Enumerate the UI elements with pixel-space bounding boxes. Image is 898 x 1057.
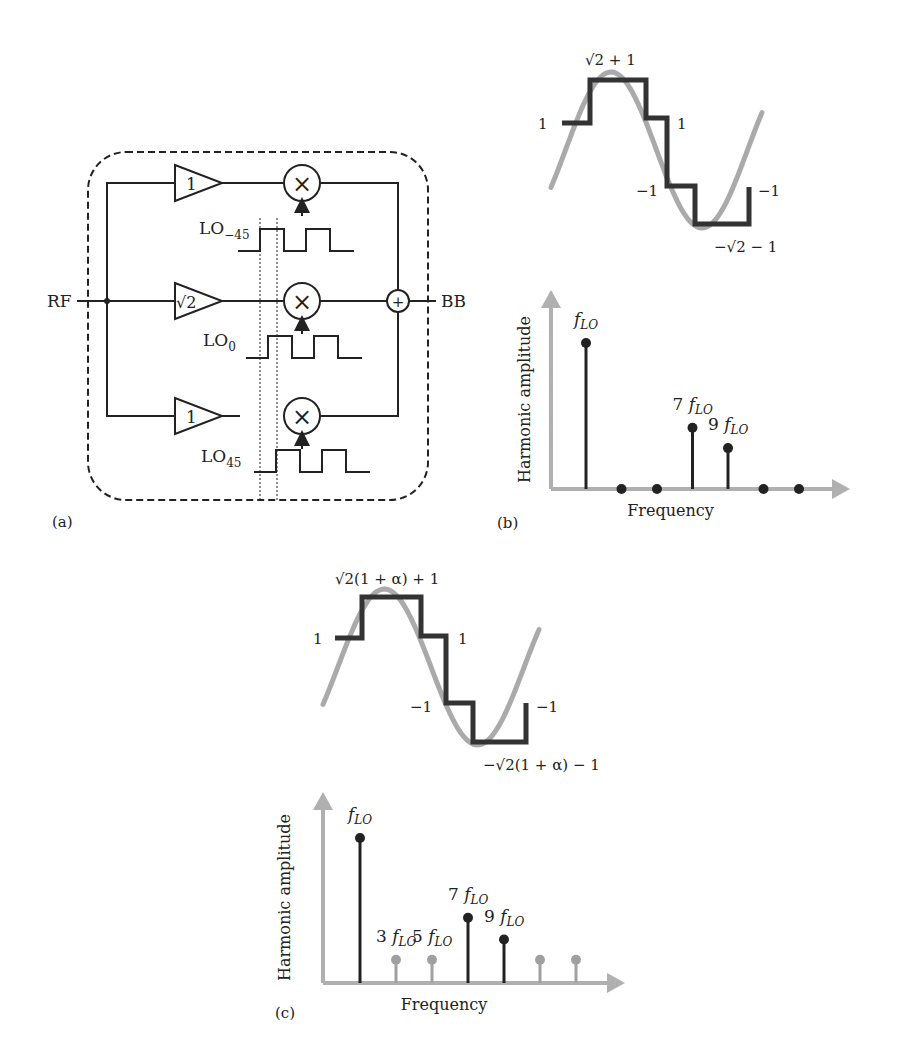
stem-marker-fLO (581, 338, 591, 348)
input-bus (107, 183, 175, 416)
lo-label-0: LO0 (203, 330, 236, 354)
wire-to-sum-top (320, 183, 398, 290)
harmonic-label: 9 fLO (484, 906, 525, 929)
amplifier-bottom: 1 (175, 398, 222, 434)
label-peak: √2(1 + α) + 1 (335, 570, 439, 588)
harmonic-label: 7 fLO (448, 884, 489, 907)
x-axis-arrow-icon (607, 973, 625, 993)
harmonic-label: fLO (572, 309, 598, 332)
lo-label-45: LO45 (201, 446, 242, 470)
harmonic-label: 3 fLO (376, 926, 417, 949)
mixer-bottom: × (284, 398, 320, 434)
lo-label-minus45: LO−45 (199, 218, 250, 242)
panel-b-label: (b) (497, 514, 518, 532)
panel-c-spectrum: FrequencyHarmonic amplitudefLO3 fLO5 fLO… (275, 792, 625, 1014)
label-right-high: 1 (458, 630, 468, 648)
stem-marker-7fLO (688, 423, 698, 433)
label-end: −1 (758, 182, 780, 200)
y-axis-arrow-icon (313, 792, 333, 810)
stem-marker-11fLO (759, 484, 769, 494)
stem-marker-3fLO (617, 484, 627, 494)
stem-marker-11fLO (535, 955, 545, 965)
stem-marker-5fLO (427, 955, 437, 965)
lo-waveform-45 (254, 450, 370, 472)
harmonic-label: 9 fLO (708, 414, 749, 437)
label-trough: −√2(1 + α) − 1 (483, 756, 600, 774)
stem-marker-13fLO (571, 955, 581, 965)
x-axis-arrow-icon (832, 479, 850, 499)
label-peak: √2 + 1 (585, 51, 636, 69)
lo-waveform-minus45 (238, 229, 354, 251)
label-right-low: −1 (636, 182, 658, 200)
panel-c-label: (c) (275, 1004, 295, 1022)
harmonic-label: 7 fLO (673, 394, 714, 417)
amplifier-middle: √2 (175, 283, 222, 319)
rf-label: RF (47, 291, 72, 311)
summer: + (387, 290, 409, 312)
amp-top-gain: 1 (186, 174, 197, 194)
mixer-top: × (284, 165, 320, 201)
stem-marker-3fLO (391, 955, 401, 965)
mixer-symbol: × (292, 170, 312, 198)
label-right-high: 1 (677, 115, 687, 133)
x-axis-label: Frequency (627, 501, 714, 520)
sum-symbol: + (392, 293, 405, 311)
amp-mid-gain: √2 (176, 293, 196, 312)
wire-to-sum-bot (320, 312, 398, 416)
y-axis-label: Harmonic amplitude (515, 316, 534, 483)
panel-b-spectrum: FrequencyHarmonic amplitudefLO7 fLO9 fLO (515, 290, 850, 520)
figure: RF 1 √2 1 × × × (0, 0, 898, 1057)
label-end: −1 (536, 698, 558, 716)
amp-bot-gain: 1 (186, 407, 197, 427)
panel-c-waveform: √2(1 + α) + 1 1 1 −1 −1 −√2(1 + α) − 1 (313, 570, 600, 774)
stem-marker-fLO (355, 833, 365, 843)
harmonic-label: 5 fLO (412, 926, 453, 949)
amplifier-top: 1 (175, 165, 222, 201)
panel-b-waveform: √2 + 1 1 1 −1 −1 −√2 − 1 (538, 51, 780, 256)
panel-a-block-diagram: RF 1 √2 1 × × × (47, 152, 466, 531)
x-axis-label: Frequency (401, 995, 488, 1014)
panel-a-label: (a) (52, 513, 73, 531)
sine-reference (323, 589, 539, 745)
label-right-low: −1 (410, 698, 432, 716)
sine-reference (551, 72, 762, 228)
stem-marker-5fLO (652, 484, 662, 494)
stem-marker-9fLO (723, 443, 733, 453)
y-axis-arrow-icon (541, 290, 561, 308)
stem-marker-13fLO (794, 484, 804, 494)
bb-label: BB (441, 291, 466, 311)
lo-waveform-0 (246, 336, 362, 358)
stem-marker-7fLO (463, 913, 473, 923)
label-trough: −√2 − 1 (714, 238, 777, 256)
stem-marker-9fLO (499, 935, 509, 945)
label-left: 1 (313, 630, 323, 648)
label-left: 1 (538, 115, 548, 133)
harmonic-label: fLO (346, 804, 372, 827)
mixer-symbol: × (292, 403, 312, 431)
mixer-middle: × (284, 283, 320, 319)
dashed-enclosure (88, 152, 428, 500)
y-axis-label: Harmonic amplitude (275, 814, 294, 981)
mixer-symbol: × (292, 288, 312, 316)
